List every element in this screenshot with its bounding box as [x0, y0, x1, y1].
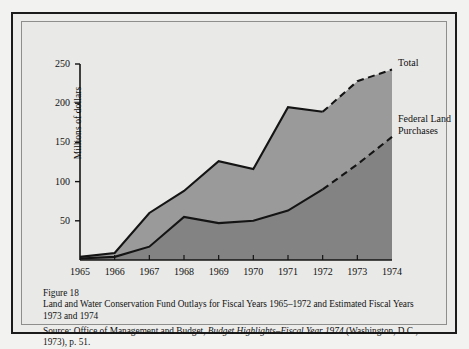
- chart-plot-area: Millions of dollars 50100150200250 19651…: [22, 22, 452, 272]
- x-tick-label: 1971: [271, 266, 305, 277]
- figure-page: Millions of dollars 50100150200250 19651…: [0, 0, 469, 349]
- figure-caption: Figure 18 Land and Water Conservation Fu…: [43, 288, 430, 322]
- source-publication-title: Budget Highlights–Fiscal Year 1974: [208, 326, 344, 336]
- x-tick-label: 1967: [132, 266, 166, 277]
- y-tick-label: 150: [40, 136, 70, 147]
- x-tick-label: 1974: [375, 266, 409, 277]
- series-label-total: Total: [398, 57, 418, 69]
- y-tick-label: 50: [40, 215, 70, 226]
- figure-outer-frame: Millions of dollars 50100150200250 19651…: [11, 12, 457, 334]
- y-axis-title: Millions of dollars: [73, 63, 83, 183]
- figure-inner-frame: Millions of dollars 50100150200250 19651…: [21, 21, 447, 325]
- y-tick-label: 200: [40, 97, 70, 108]
- source-prefix: Source: Office of Management and Budget,: [43, 326, 208, 336]
- area-chart: [22, 22, 452, 272]
- x-tick-label: 1969: [202, 266, 236, 277]
- x-tick-label: 1970: [236, 266, 270, 277]
- figure-number: Figure 18: [43, 288, 430, 299]
- x-tick-label: 1965: [63, 266, 97, 277]
- x-tick-label: 1968: [167, 266, 201, 277]
- figure-source: Source: Office of Management and Budget,…: [43, 326, 430, 349]
- y-tick-label: 250: [40, 58, 70, 69]
- y-tick-label: 100: [40, 176, 70, 187]
- series-label-federal-land-purchases: Federal Land Purchases: [398, 113, 451, 137]
- x-tick-label: 1973: [340, 266, 374, 277]
- x-tick-label: 1966: [98, 266, 132, 277]
- x-tick-label: 1972: [306, 266, 340, 277]
- figure-title: Land and Water Conservation Fund Outlays…: [43, 299, 430, 322]
